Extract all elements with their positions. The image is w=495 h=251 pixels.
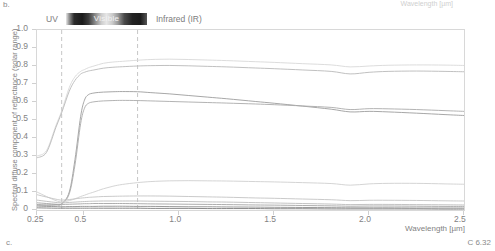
- y-tick-mark: [32, 155, 36, 156]
- x-tick-label: 0.25: [27, 214, 44, 224]
- uv-band-label: UV: [46, 14, 58, 24]
- series-line: [37, 195, 464, 201]
- x-tick-mark: [83, 211, 84, 215]
- x-tick-label: 1.5: [264, 214, 276, 224]
- series-line: [37, 181, 464, 202]
- series-line: [37, 65, 464, 157]
- y-tick-label: 0.5: [16, 113, 28, 123]
- y-tick-mark: [32, 47, 36, 48]
- y-tick-mark: [32, 173, 36, 174]
- y-tick-label: 0: [23, 203, 28, 213]
- y-tick-label: 0.4: [16, 131, 28, 141]
- y-tick-mark: [32, 101, 36, 102]
- x-tick-mark: [368, 211, 369, 215]
- y-tick-label: 0.2: [16, 167, 28, 177]
- x-tick-label: 2.0: [359, 214, 371, 224]
- series-line: [37, 92, 464, 205]
- y-tick-label: 0.8: [16, 59, 28, 69]
- panel-label-top: b.: [3, 0, 10, 9]
- x-axis-title: Wavelength [µm]: [405, 224, 465, 233]
- panel-label-bottom: c.: [6, 238, 12, 247]
- y-tick-mark: [32, 191, 36, 192]
- spectral-band-legend: UV Visible Infrared (IR): [40, 13, 475, 26]
- figure-code: C 6.32: [467, 238, 491, 247]
- y-tick-label: 0.6: [16, 95, 28, 105]
- y-tick-mark: [32, 209, 36, 210]
- x-tick-label: 0.5: [74, 214, 86, 224]
- x-tick-label: 1.0: [169, 214, 181, 224]
- x-tick-mark: [36, 211, 37, 215]
- y-tick-mark: [32, 29, 36, 30]
- x-tick-mark: [463, 211, 464, 215]
- y-tick-label: 0.3: [16, 149, 28, 159]
- visible-band-label: Visible: [66, 14, 147, 23]
- y-tick-mark: [32, 83, 36, 84]
- x-tick-mark: [273, 211, 274, 215]
- y-tick-mark: [32, 119, 36, 120]
- y-tick-label: 0.7: [16, 77, 28, 87]
- infrared-band-label: Infrared (IR): [156, 14, 202, 24]
- series-line: [37, 200, 464, 205]
- ghost-axis-label-top: Wavelength [µm]: [401, 0, 453, 7]
- visible-band-gradient: Visible: [66, 13, 147, 25]
- plot-area: [36, 29, 465, 211]
- y-tick-label: 1.0: [16, 23, 28, 33]
- y-tick-mark: [32, 65, 36, 66]
- x-tick-label: 2.5: [454, 214, 466, 224]
- y-tick-mark: [32, 137, 36, 138]
- x-tick-mark: [178, 211, 179, 215]
- y-tick-label: 0.9: [16, 41, 28, 51]
- curve-layer: [37, 30, 464, 210]
- series-line: [37, 59, 464, 156]
- y-tick-label: 0.1: [16, 185, 28, 195]
